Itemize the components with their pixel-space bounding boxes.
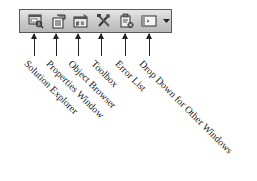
- label-drop-down-other-windows: Drop Down for Other Windows: [137, 58, 235, 156]
- solution-explorer-button[interactable]: [25, 11, 47, 31]
- other-window-button[interactable]: [138, 11, 160, 31]
- error-list-button[interactable]: [116, 11, 138, 31]
- arrow-solution-explorer: [34, 34, 35, 56]
- object-browser-button[interactable]: [70, 11, 92, 31]
- properties-window-button[interactable]: [48, 11, 70, 31]
- arrow-object-browser: [78, 34, 79, 56]
- toolbox-button[interactable]: [93, 11, 115, 31]
- other-windows-dropdown[interactable]: [161, 11, 171, 31]
- windows-toolbar: [19, 9, 172, 33]
- arrow-properties-window: [56, 34, 57, 56]
- properties-window-icon: [51, 13, 67, 29]
- solution-explorer-icon: [28, 13, 44, 29]
- window-icon: [141, 13, 157, 29]
- arrow-drop-down: [149, 34, 150, 56]
- chevron-down-icon: [163, 19, 170, 24]
- error-list-icon: [119, 13, 135, 29]
- arrow-toolbox: [101, 34, 102, 56]
- object-browser-icon: [73, 13, 89, 29]
- arrow-error-list: [125, 34, 126, 56]
- toolbox-icon: [96, 13, 112, 29]
